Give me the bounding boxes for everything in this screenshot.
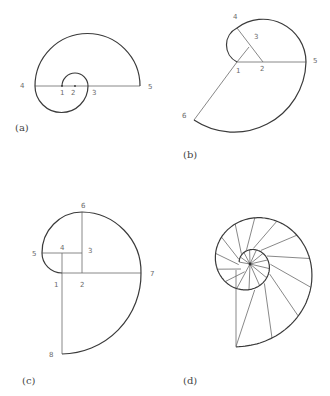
arc-4-5 xyxy=(237,19,306,62)
line-1-3 xyxy=(237,47,249,62)
label-c-8: 8 xyxy=(49,351,53,359)
label-b-6: 6 xyxy=(182,112,187,120)
label-a-2: 2 xyxy=(71,89,75,97)
caption-b: (b) xyxy=(183,149,197,160)
panel-b-labels: 1 2 3 4 5 6 xyxy=(182,13,317,120)
radial-line xyxy=(247,218,255,250)
radial-line xyxy=(264,283,272,338)
radial-line xyxy=(250,264,260,286)
point-2-marker xyxy=(74,85,76,87)
radial-line xyxy=(235,224,241,254)
label-c-7: 7 xyxy=(150,270,154,278)
label-b-5: 5 xyxy=(313,57,317,65)
panel-b: 1 2 3 4 5 6 (b) xyxy=(182,13,317,160)
label-c-2: 2 xyxy=(80,281,84,289)
arc-4-5 xyxy=(35,34,140,87)
arc-1-5 xyxy=(42,253,62,273)
label-a-5: 5 xyxy=(148,83,152,91)
radial-line xyxy=(270,274,299,316)
arc-6-7 xyxy=(82,212,141,273)
radial-line xyxy=(237,264,250,289)
label-b-3: 3 xyxy=(254,33,258,41)
label-c-1: 1 xyxy=(54,281,58,289)
caption-d: (d) xyxy=(183,375,197,386)
label-b-1: 1 xyxy=(236,67,240,75)
radial-line xyxy=(267,256,310,259)
label-c-6: 6 xyxy=(81,202,86,210)
radial-line xyxy=(253,221,277,248)
panel-c-labels: 1 2 3 4 5 6 7 8 xyxy=(32,202,154,359)
panel-d: (d) xyxy=(183,218,312,386)
label-c-4: 4 xyxy=(60,244,65,252)
label-b-2: 2 xyxy=(260,65,264,73)
spiral-construction-figure: 1 2 3 4 5 (a) 1 2 3 4 5 6 (b) xyxy=(0,0,330,396)
radial-line xyxy=(261,235,297,250)
radial-line xyxy=(249,264,250,290)
label-c-5: 5 xyxy=(32,250,36,258)
panel-c: 1 2 3 4 5 6 7 8 (c) xyxy=(22,202,154,386)
point-1-marker xyxy=(61,85,63,87)
arc-1-4 xyxy=(226,28,237,62)
label-a-4: 4 xyxy=(20,82,25,90)
label-b-4: 4 xyxy=(233,13,238,21)
radial-line xyxy=(222,237,239,259)
hub-marker xyxy=(249,263,252,266)
label-c-3: 3 xyxy=(88,247,92,255)
label-a-1: 1 xyxy=(60,89,64,97)
radial-line xyxy=(236,290,255,347)
label-a-3: 3 xyxy=(92,89,96,97)
panel-a: 1 2 3 4 5 (a) xyxy=(15,34,152,134)
arc-1-3 xyxy=(62,73,88,86)
caption-c: (c) xyxy=(22,375,36,386)
line-1-6 xyxy=(194,62,237,120)
arc-7-8 xyxy=(62,273,141,354)
caption-a: (a) xyxy=(15,122,29,133)
